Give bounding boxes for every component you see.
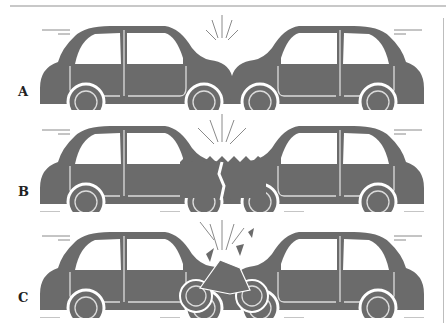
panel-label-a: A (18, 84, 28, 99)
car-left (40, 26, 234, 110)
panel-c: C (0, 218, 446, 318)
panel-label-b: B (18, 184, 29, 199)
panel-label-c: C (18, 290, 28, 305)
panel-b: B (0, 112, 446, 212)
car-right (230, 26, 424, 110)
top-divider (10, 5, 446, 7)
panel-a: A (0, 10, 446, 110)
